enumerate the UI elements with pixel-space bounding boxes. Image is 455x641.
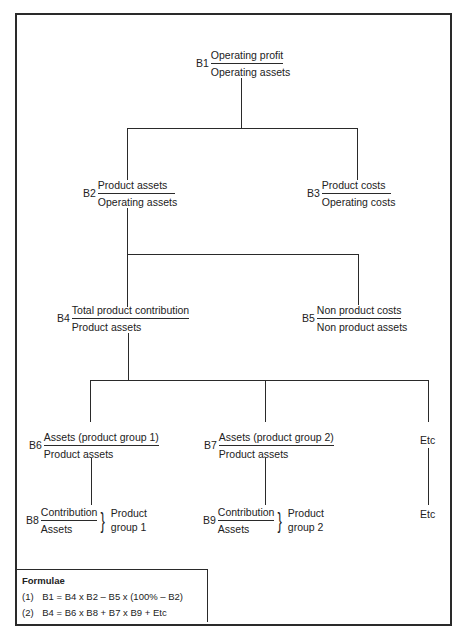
ratio-numerator: Assets (product group 1) [44,432,159,446]
ratio-numerator: Product assets [98,180,175,194]
connector-level1-horizontal [127,128,358,129]
brace-icon: } [278,510,282,532]
connector-to-b5 [358,254,359,305]
node-code: B2 [83,188,96,199]
node-code: B7 [204,440,217,451]
ratio-numerator: Contribution [41,507,98,521]
formula-text: B1 = B4 x B2 – B5 x (100% – B2) [42,591,183,602]
connector-to-b2 [127,128,128,180]
connector-b1-down [241,78,242,129]
group-line-2: group 2 [288,521,324,535]
ratio-numerator: Product costs [322,180,392,194]
connector-b6-to-b8 [91,458,92,505]
node-b8: B8 Contribution Assets } Product group 1 [26,507,147,534]
ratio-denominator: Operating costs [322,194,396,208]
ratio-fraction: Operating profit Operating assets [211,50,290,77]
formula-row: (1) B1 = B4 x B2 – B5 x (100% – B2) [22,591,207,602]
ratio-denominator: Assets [218,521,250,535]
node-b6: B6 Assets (product group 1) Product asse… [29,432,159,459]
group-line-1: Product [288,507,324,521]
group-line-2: group 1 [111,521,147,535]
connector-to-b6 [90,380,91,422]
ratio-denominator: Product assets [44,446,113,460]
ratio-numerator: Operating profit [211,50,283,64]
formulae-box: Formulae (1) B1 = B4 x B2 – B5 x (100% –… [15,569,208,622]
connector-b7-to-b9 [265,458,266,505]
node-code: B3 [307,188,320,199]
ratio-fraction: Contribution Assets [41,507,98,534]
connector-b2-down [127,208,128,307]
formula-row: (2) B4 = B6 x B8 + B7 x B9 + Etc [22,607,207,618]
ratio-numerator: Contribution [218,507,275,521]
node-code: B6 [29,440,42,451]
brace-icon: } [101,510,105,532]
node-b9: B9 Contribution Assets } Product group 2 [203,507,324,534]
node-code: B4 [57,313,70,324]
ratio-fraction: Assets (product group 2) Product assets [219,432,334,459]
product-group-label: Product group 1 [111,507,147,534]
connector-to-b7 [265,380,266,422]
node-b5: B5 Non product costs Non product assets [302,305,407,332]
connector-etc-to-etc [428,448,429,505]
node-code: B5 [302,313,315,324]
node-b2: B2 Product assets Operating assets [83,180,177,207]
ratio-fraction: Non product costs Non product assets [317,305,407,332]
group-line-1: Product [111,507,147,521]
node-b7: B7 Assets (product group 2) Product asse… [204,432,334,459]
ratio-denominator: Non product assets [317,319,407,333]
connector-level2-horizontal [127,254,359,255]
ratio-fraction: Product assets Operating assets [98,180,177,207]
ratio-numerator: Assets (product group 2) [219,432,334,446]
ratio-denominator: Operating assets [98,194,177,208]
ratio-fraction: Contribution Assets [218,507,275,534]
connector-to-etc [428,380,429,422]
connector-level3-horizontal [90,380,429,381]
ratio-denominator: Operating assets [211,64,290,78]
ratio-numerator: Non product costs [317,305,402,319]
formula-index: (1) [22,591,34,602]
node-b1: B1 Operating profit Operating assets [196,50,290,77]
ratio-denominator: Product assets [219,446,288,460]
ratio-fraction: Product costs Operating costs [322,180,396,207]
ratio-denominator: Assets [41,521,73,535]
node-b4: B4 Total product contribution Product as… [57,305,189,332]
ratio-numerator: Total product contribution [72,305,189,319]
node-code: B9 [203,515,216,526]
ratio-denominator: Product assets [72,319,141,333]
node-etc-lower: Etc [420,508,435,520]
node-etc-upper: Etc [420,434,435,446]
node-code: B1 [196,58,209,69]
formula-index: (2) [22,607,34,618]
ratio-fraction: Total product contribution Product asset… [72,305,189,332]
ratio-fraction: Assets (product group 1) Product assets [44,432,159,459]
connector-b4-down [128,333,129,381]
connector-to-b3 [357,128,358,180]
formula-text: B4 = B6 x B8 + B7 x B9 + Etc [42,607,166,618]
node-b3: B3 Product costs Operating costs [307,180,395,207]
node-code: B8 [26,515,39,526]
product-group-label: Product group 2 [288,507,324,534]
formulae-title: Formulae [22,575,207,586]
